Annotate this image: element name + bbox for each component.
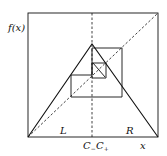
cobweb-orbit-outer	[71, 48, 122, 97]
x-axis-label: x	[140, 140, 146, 151]
c-plus-label: C+	[96, 140, 109, 152]
cobweb-diagram: f(x) L R x C− C+	[0, 0, 167, 156]
c-minus-label: C−	[83, 140, 96, 152]
y-axis-label: f(x)	[7, 22, 25, 33]
tent-map-curve	[28, 44, 158, 137]
identity-diagonal	[28, 13, 158, 137]
region-left-label: L	[59, 125, 67, 136]
region-right-label: R	[125, 125, 134, 136]
